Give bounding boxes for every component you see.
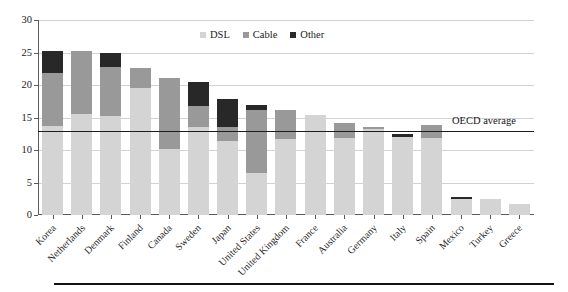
legend-label-dsl: DSL bbox=[210, 29, 230, 40]
bar-segment-other bbox=[392, 134, 413, 137]
y-axis-tick-label: 5 bbox=[6, 178, 32, 188]
x-axis-label-text: Sweden bbox=[173, 222, 203, 252]
bar-segment-dsl bbox=[188, 127, 209, 215]
x-axis-tick-mark bbox=[344, 215, 345, 219]
cable-swatch bbox=[243, 32, 249, 38]
x-axis-tick-mark bbox=[519, 215, 520, 219]
x-axis-tick-mark bbox=[461, 215, 462, 219]
x-axis-tick-mark bbox=[403, 215, 404, 219]
bar-segment-dsl bbox=[451, 199, 472, 215]
legend-label-other: Other bbox=[300, 29, 324, 40]
x-axis-label-text: Italy bbox=[387, 222, 408, 243]
bar-segment-dsl bbox=[334, 138, 355, 215]
oecd-average-label: OECD average bbox=[452, 115, 516, 126]
legend-label-cable: Cable bbox=[253, 29, 278, 40]
x-axis-tick-mark bbox=[257, 215, 258, 219]
bar-segment-dsl bbox=[246, 173, 267, 215]
bar-segment-cable bbox=[363, 127, 384, 129]
bar-australia bbox=[334, 20, 355, 215]
bar-segment-other bbox=[451, 197, 472, 199]
oecd-average-line bbox=[38, 131, 534, 132]
x-axis-tick-mark bbox=[315, 215, 316, 219]
x-axis-label: Korea bbox=[33, 220, 58, 245]
y-axis-tick-mark bbox=[34, 150, 38, 151]
bar-segment-other bbox=[217, 99, 238, 127]
bar-segment-dsl bbox=[42, 126, 63, 215]
bar-france bbox=[305, 20, 326, 215]
x-axis-label: Turkey bbox=[468, 220, 496, 248]
y-axis-tick-label: 15 bbox=[6, 113, 32, 123]
bar-united-states bbox=[246, 20, 267, 215]
bar-segment-dsl bbox=[509, 204, 530, 215]
bar-netherlands bbox=[71, 20, 92, 215]
x-axis-label-text: Finland bbox=[116, 222, 145, 251]
y-axis-tick-label: 20 bbox=[6, 80, 32, 90]
bar-segment-dsl bbox=[392, 137, 413, 215]
bar-segment-dsl bbox=[363, 129, 384, 215]
x-axis-label: Finland bbox=[116, 220, 145, 249]
bar-segment-dsl bbox=[421, 138, 442, 215]
x-axis-label-text: Greece bbox=[497, 222, 525, 250]
x-axis-label: Japan bbox=[210, 220, 234, 244]
y-axis-tick-mark bbox=[34, 85, 38, 86]
bar-segment-dsl bbox=[217, 141, 238, 215]
x-axis-tick-mark bbox=[169, 215, 170, 219]
y-axis-tick-mark bbox=[34, 20, 38, 21]
bar-segment-other bbox=[246, 105, 267, 110]
x-axis-label-text: Canada bbox=[145, 222, 174, 251]
bar-segment-cable bbox=[188, 106, 209, 127]
x-axis-tick-mark bbox=[198, 215, 199, 219]
x-axis-labels: KoreaNetherlandsDenmarkFinlandCanadaSwed… bbox=[0, 216, 568, 276]
y-axis-tick-mark bbox=[34, 53, 38, 54]
x-axis-tick-mark bbox=[286, 215, 287, 219]
chart-legend: DSL Cable Other bbox=[200, 29, 324, 40]
x-axis-tick-mark bbox=[53, 215, 54, 219]
bar-segment-cable bbox=[130, 68, 151, 88]
x-axis-label-text: Korea bbox=[33, 222, 58, 247]
bar-segment-cable bbox=[71, 51, 92, 113]
bar-spain bbox=[421, 20, 442, 215]
bar-united-kingdom bbox=[275, 20, 296, 215]
x-axis-label: Mexico bbox=[437, 220, 466, 249]
bar-segment-cable bbox=[159, 78, 180, 150]
bar-segment-dsl bbox=[480, 199, 501, 215]
broadband-subscribers-stacked-bar-chart: OECD average DSL Cable Other KoreaNether… bbox=[0, 0, 568, 292]
x-axis-tick-mark bbox=[374, 215, 375, 219]
bar-segment-other bbox=[188, 82, 209, 106]
legend-item-cable: Cable bbox=[243, 29, 278, 40]
bar-segment-dsl bbox=[130, 88, 151, 215]
x-axis-tick-mark bbox=[111, 215, 112, 219]
y-axis-tick-label: 25 bbox=[6, 48, 32, 58]
bar-segment-dsl bbox=[159, 149, 180, 215]
x-axis-label: Sweden bbox=[174, 220, 204, 250]
x-axis-label-text: Turkey bbox=[467, 222, 495, 250]
x-axis-tick-mark bbox=[140, 215, 141, 219]
bottom-rule-divider bbox=[54, 283, 554, 285]
y-axis-tick-label: 0 bbox=[6, 210, 32, 220]
x-axis-label: Germany bbox=[345, 220, 379, 254]
other-swatch bbox=[290, 32, 296, 38]
x-axis-tick-mark bbox=[432, 215, 433, 219]
dsl-swatch bbox=[200, 32, 206, 38]
bar-italy bbox=[392, 20, 413, 215]
bar-segment-cable bbox=[275, 110, 296, 139]
x-axis-label: United Kingdom bbox=[236, 220, 292, 276]
bar-denmark bbox=[100, 20, 121, 215]
x-axis-label: France bbox=[294, 220, 321, 247]
bar-segment-other bbox=[100, 53, 121, 67]
bar-japan bbox=[217, 20, 238, 215]
bar-segment-dsl bbox=[71, 114, 92, 215]
bar-canada bbox=[159, 20, 180, 215]
y-axis-tick-mark bbox=[34, 183, 38, 184]
bar-germany bbox=[363, 20, 384, 215]
bar-sweden bbox=[188, 20, 209, 215]
x-axis-label: Denmark bbox=[83, 220, 117, 254]
x-axis-tick-mark bbox=[490, 215, 491, 219]
bar-segment-other bbox=[42, 51, 63, 73]
bar-finland bbox=[130, 20, 151, 215]
x-axis-label-text: Japan bbox=[209, 222, 233, 246]
y-axis-tick-mark bbox=[34, 215, 38, 216]
x-axis-tick-mark bbox=[82, 215, 83, 219]
bar-segment-cable bbox=[42, 73, 63, 126]
bar-segment-dsl bbox=[275, 139, 296, 215]
